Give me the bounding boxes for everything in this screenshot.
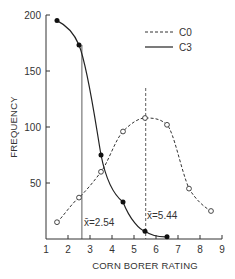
x-axis-title: CORN BORER RATING — [92, 260, 198, 271]
x-tick-label: 4 — [109, 244, 115, 255]
series-c3-markers — [55, 18, 170, 239]
x-ticks — [68, 235, 222, 239]
chart: 200 150 100 50 1 2 3 4 5 6 7 8 9 CORN BO… — [0, 0, 235, 279]
series-c3-line — [57, 21, 167, 237]
y-tick-labels: 200 150 100 50 — [24, 10, 41, 189]
y-tick-label: 200 — [24, 10, 41, 21]
x-tick-labels: 1 2 3 4 5 6 7 8 9 — [43, 244, 225, 255]
series-c0-markers — [55, 116, 214, 225]
legend-c3-label: C3 — [179, 42, 192, 53]
y-tick-label: 150 — [24, 66, 41, 77]
mean-label-c0: x̄=5.44 — [147, 210, 178, 221]
y-tick-label: 50 — [30, 178, 42, 189]
y-ticks — [46, 15, 50, 183]
mean-label-c3: x̄=2.54 — [84, 217, 115, 228]
series-c0-line — [57, 118, 211, 222]
x-tick-label: 6 — [153, 244, 159, 255]
x-tick-label: 1 — [43, 244, 49, 255]
x-tick-label: 7 — [175, 244, 181, 255]
x-tick-label: 5 — [131, 244, 137, 255]
x-tick-label: 8 — [197, 244, 203, 255]
y-tick-label: 100 — [24, 122, 41, 133]
x-tick-label: 2 — [65, 244, 71, 255]
x-tick-label: 9 — [219, 244, 225, 255]
y-axis-title: FREQUENCY — [8, 96, 19, 158]
legend: C0 C3 — [145, 27, 192, 53]
legend-c0-label: C0 — [179, 27, 192, 38]
x-tick-label: 3 — [87, 244, 93, 255]
